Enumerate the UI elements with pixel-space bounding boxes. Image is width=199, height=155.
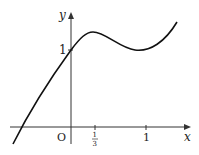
x-tick-label-one: 1 [143, 131, 150, 144]
x-tick-label-third-denominator: 3 [93, 140, 97, 148]
x-tick-label-third-numerator: 1 [93, 131, 97, 139]
y-tick-label-one: 1 [59, 43, 67, 57]
graph: y x O 1 1 1 3 [0, 0, 199, 155]
y-axis-arrow-icon [68, 12, 74, 19]
x-axis-label: x [184, 130, 191, 144]
origin-label: O [57, 131, 66, 144]
y-axis-label: y [58, 8, 66, 22]
